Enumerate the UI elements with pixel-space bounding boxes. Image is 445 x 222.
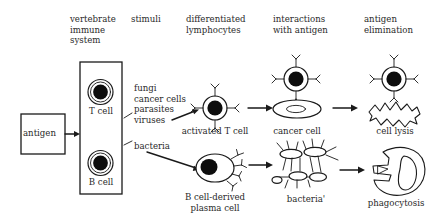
b-cell-glyph bbox=[88, 151, 113, 176]
antigen-label: antigen bbox=[23, 128, 65, 139]
agglutinated-bacteria-glyph bbox=[272, 139, 338, 188]
immune-response-diagram: vertebrate immune system stimuli differe… bbox=[0, 0, 445, 222]
arrow-cancer-cell-to-cell-lysis bbox=[333, 105, 358, 112]
activated-t-cell-label: activated T cell bbox=[178, 126, 252, 137]
diagram-artwork bbox=[0, 0, 445, 222]
cancer-cell-label: cancer cell bbox=[270, 126, 324, 137]
leader-line-b-stimuli bbox=[124, 141, 132, 145]
arrow-plasma-cell-to-bacteria bbox=[249, 162, 273, 169]
plasma-cell-label: B cell-derived plasma cell bbox=[182, 192, 248, 213]
arrow-bacteria-to-phagocytosis bbox=[340, 167, 365, 174]
plasma-cell-glyph bbox=[196, 150, 247, 192]
cell-lysis-label: cell lysis bbox=[371, 126, 419, 137]
arrow-antigen-to-immune-system bbox=[65, 131, 80, 137]
t-cell-glyph bbox=[88, 80, 113, 105]
arrow-activated-t-to-cancer-cell bbox=[248, 105, 273, 112]
phagocytosis-label: phagocytosis bbox=[366, 198, 426, 209]
t-cell-attacking-cancer-cell-glyph bbox=[272, 55, 321, 118]
b-cell-label: B cell bbox=[80, 177, 122, 188]
activated-t-cell-glyph bbox=[191, 84, 239, 132]
bacteria-prime-label: bacteria' bbox=[281, 194, 331, 205]
leader-line-t-stimuli bbox=[124, 113, 132, 118]
cell-lysis-glyph bbox=[369, 55, 420, 127]
phagocytosis-glyph bbox=[373, 148, 425, 196]
stimuli-b-cell-branch-label: bacteria bbox=[134, 141, 194, 152]
arrow-bacteria-to-plasma-cell bbox=[147, 152, 200, 171]
t-cell-label: T cell bbox=[80, 106, 122, 117]
stimuli-t-cell-branch-label: fungi cancer cells parasites viruses bbox=[134, 83, 194, 125]
